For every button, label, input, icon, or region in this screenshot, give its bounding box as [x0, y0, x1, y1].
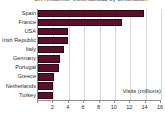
- x-axis-minor-tick: [45, 100, 46, 101]
- y-axis-tick-label: Portugal: [0, 65, 36, 71]
- x-axis-minor-tick: [133, 100, 134, 101]
- x-axis-minor-tick: [41, 100, 42, 101]
- x-axis-tick-label: 4: [61, 104, 75, 110]
- chart-title-strip: UK residents' visits abroad by destinati…: [0, 0, 165, 7]
- gridline: [161, 9, 162, 100]
- x-axis-tick-label: 12: [122, 104, 136, 110]
- chart-title: UK residents' visits abroad by destinati…: [34, 0, 148, 2]
- bar: [38, 82, 53, 89]
- bar-row: [38, 55, 161, 64]
- bar-row: [38, 73, 161, 82]
- x-axis-minor-tick: [49, 100, 50, 101]
- plot-area: [37, 9, 160, 100]
- x-axis-minor-tick: [110, 100, 111, 101]
- x-axis-minor-tick: [87, 100, 88, 101]
- x-axis-minor-tick: [141, 100, 142, 101]
- y-axis-tick-label: Spain: [0, 11, 36, 17]
- y-axis-tick-label: Irish Republic: [0, 38, 36, 44]
- y-axis-tick-label: Turkey: [0, 93, 36, 99]
- x-axis-caption: Visits (millions): [122, 88, 161, 94]
- x-axis-minor-tick: [95, 100, 96, 101]
- bar: [38, 55, 60, 62]
- bar-row: [38, 27, 161, 36]
- x-axis-tick-label: 10: [107, 104, 121, 110]
- x-axis-minor-tick: [152, 100, 153, 101]
- bar: [38, 28, 68, 35]
- bar-row: [38, 9, 161, 18]
- x-axis-minor-tick: [91, 100, 92, 101]
- x-axis-tick: [52, 100, 53, 103]
- x-axis-minor-tick: [118, 100, 119, 101]
- bar-chart: UK residents' visits abroad by destinati…: [0, 0, 165, 116]
- y-axis-tick-label: France: [0, 20, 36, 26]
- x-axis-minor-tick: [56, 100, 57, 101]
- x-axis-tick-label: 16: [153, 104, 165, 110]
- x-axis-minor-tick: [148, 100, 149, 101]
- x-axis-minor-tick: [60, 100, 61, 101]
- x-axis-tick: [114, 100, 115, 103]
- x-axis-tick: [99, 100, 100, 103]
- y-axis-tick-label: Greece: [0, 74, 36, 80]
- x-axis-tick: [129, 100, 130, 103]
- x-axis-tick: [37, 100, 38, 103]
- bar-row: [38, 18, 161, 27]
- bar: [38, 64, 59, 71]
- x-axis-tick: [83, 100, 84, 103]
- x-axis-minor-tick: [72, 100, 73, 101]
- x-axis-minor-tick: [137, 100, 138, 101]
- x-axis-minor-tick: [75, 100, 76, 101]
- x-axis-minor-tick: [79, 100, 80, 101]
- x-axis-minor-tick: [122, 100, 123, 101]
- x-axis-minor-tick: [102, 100, 103, 101]
- x-axis-tick-label: 2: [45, 104, 59, 110]
- x-axis-tick-label: 14: [138, 104, 152, 110]
- x-axis-tick-label: 8: [92, 104, 106, 110]
- bar-row: [38, 64, 161, 73]
- bar: [38, 19, 122, 26]
- bar: [38, 46, 64, 53]
- x-axis-minor-tick: [106, 100, 107, 101]
- y-axis-tick-label: Italy: [0, 47, 36, 53]
- y-axis-category-labels: SpainFranceUSAIrish RepublicItalyGermany…: [0, 9, 36, 100]
- x-axis-tick-label: 6: [76, 104, 90, 110]
- y-axis-tick-label: USA: [0, 29, 36, 35]
- x-axis-tick: [145, 100, 146, 103]
- y-axis-tick-label: Netherlands: [0, 84, 36, 90]
- bar-row: [38, 36, 161, 45]
- x-axis-minor-tick: [64, 100, 65, 101]
- bar: [38, 10, 144, 17]
- x-axis-minor-tick: [156, 100, 157, 101]
- y-axis-tick-label: Germany: [0, 56, 36, 62]
- bar-row: [38, 45, 161, 54]
- bar: [38, 92, 53, 99]
- x-axis-minor-tick: [125, 100, 126, 101]
- x-axis-tick: [160, 100, 161, 103]
- x-axis-tick: [68, 100, 69, 103]
- bar: [38, 37, 68, 44]
- bar: [38, 73, 54, 80]
